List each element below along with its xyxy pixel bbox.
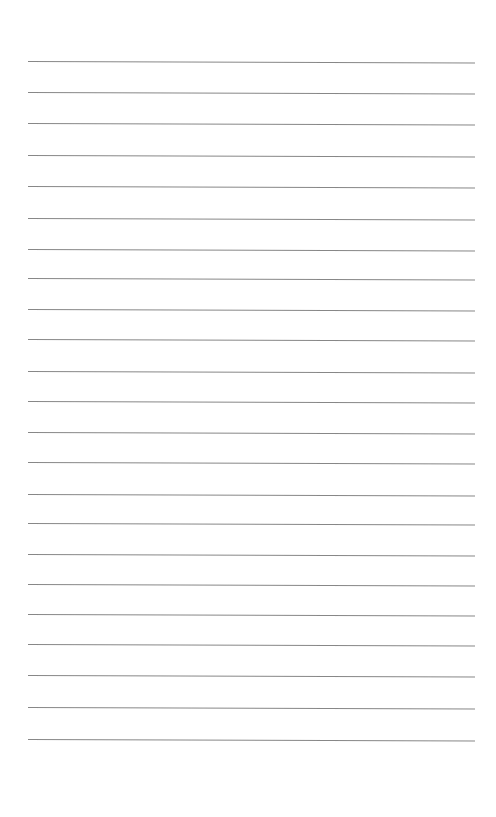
- ruled-line: [28, 155, 475, 158]
- ruled-line: [28, 339, 475, 342]
- ruled-line: [28, 523, 475, 526]
- ruled-line: [28, 462, 475, 465]
- ruled-line: [28, 309, 475, 312]
- ruled-line: [28, 278, 475, 281]
- ruled-line: [28, 584, 475, 587]
- ruled-line: [28, 644, 475, 647]
- ruled-line: [28, 186, 475, 189]
- ruled-line: [28, 123, 475, 126]
- ruled-line: [28, 554, 475, 557]
- ruled-line: [28, 739, 475, 742]
- ruled-line: [28, 432, 475, 435]
- ruled-line: [28, 61, 475, 64]
- ruled-line: [28, 614, 475, 617]
- ruled-line: [28, 371, 475, 374]
- ruled-line: [28, 707, 475, 710]
- ruled-line: [28, 494, 475, 497]
- ruled-line: [28, 218, 475, 221]
- ruled-line: [28, 675, 475, 678]
- ruled-line: [28, 92, 475, 95]
- ruled-line: [28, 249, 475, 252]
- lined-paper-sheet: [0, 0, 496, 817]
- ruled-line: [28, 401, 475, 404]
